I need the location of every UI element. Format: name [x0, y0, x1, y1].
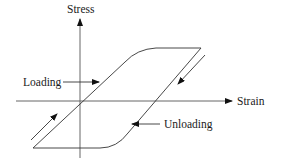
hysteresis-diagram: Stress Strain Loading Unloading [0, 0, 288, 165]
loading-label: Loading [23, 76, 62, 89]
loading-direction-arrow [31, 114, 57, 140]
strain-axis-label: Strain [237, 95, 265, 107]
stress-axis-label: Stress [67, 3, 95, 15]
unloading-label: Unloading [164, 118, 213, 131]
hysteresis-loop [33, 48, 201, 148]
